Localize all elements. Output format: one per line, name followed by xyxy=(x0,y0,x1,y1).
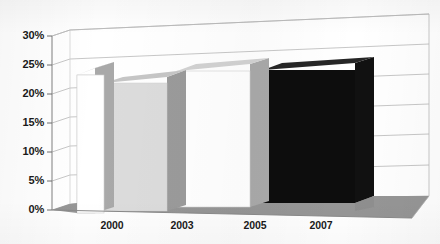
x-tick-label-2005: 2005 xyxy=(225,219,285,231)
y-axis-depth-panel xyxy=(52,30,70,210)
y-tick-label-15: 15% xyxy=(0,116,44,128)
chart-plot-area xyxy=(0,0,440,244)
x-tick-label-2007: 2007 xyxy=(291,219,351,231)
y-tick-label-10: 10% xyxy=(0,145,44,157)
y-tick-label-25: 25% xyxy=(0,58,44,70)
bar-2000-front xyxy=(77,75,104,213)
y-tick-label-5: 5% xyxy=(0,174,44,186)
y-tick-label-20: 20% xyxy=(0,87,44,99)
bar-chart: 30% 25% 20% 15% 10% 5% 0% 2000 2003 2005… xyxy=(0,0,440,244)
x-tick-label-2000: 2000 xyxy=(82,219,142,231)
y-axis-ticks xyxy=(47,36,52,210)
y-tick-label-30: 30% xyxy=(0,29,44,41)
bar-2007 xyxy=(263,57,374,203)
x-tick-label-2003: 2003 xyxy=(152,219,212,231)
y-tick-label-0: 0% xyxy=(0,203,44,215)
bar-2003 xyxy=(104,70,186,211)
bar-2005 xyxy=(177,58,269,207)
